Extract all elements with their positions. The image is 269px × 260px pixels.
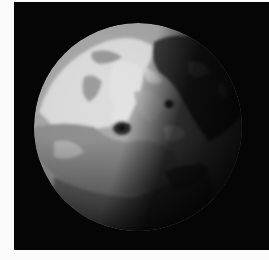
moon-image <box>14 2 269 250</box>
moon-surface <box>14 2 269 250</box>
photo-frame <box>14 2 269 250</box>
